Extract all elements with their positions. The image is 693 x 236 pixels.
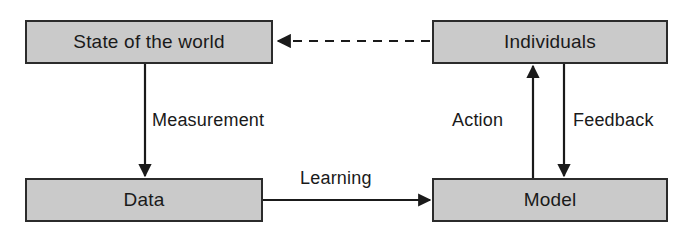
edge-label-learning: Learning — [300, 168, 372, 189]
node-data[interactable]: Data — [25, 178, 263, 222]
node-model[interactable]: Model — [432, 178, 668, 222]
edge-label-action: Action — [452, 110, 503, 131]
node-individuals-label: Individuals — [504, 31, 596, 53]
node-state-of-the-world-label: State of the world — [73, 31, 224, 53]
edge-label-measurement: Measurement — [152, 110, 264, 131]
node-individuals[interactable]: Individuals — [432, 20, 668, 64]
diagram-canvas: State of the world Individuals Data Mode… — [0, 0, 693, 236]
node-data-label: Data — [124, 189, 165, 211]
edge-label-feedback: Feedback — [573, 110, 654, 131]
node-state-of-the-world[interactable]: State of the world — [25, 20, 273, 64]
node-model-label: Model — [524, 189, 577, 211]
